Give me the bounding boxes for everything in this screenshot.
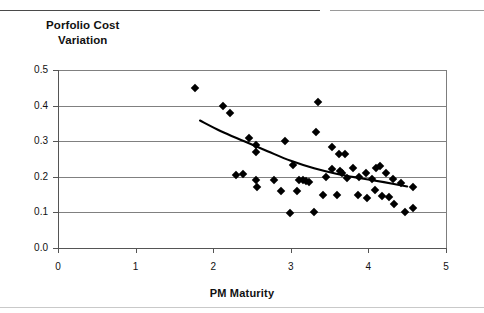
chart-title: Porfolio Cost Variation [46,18,120,48]
gridline-y [58,141,446,142]
y-tick-label: 0.2 [12,172,48,182]
gridline-y [58,106,446,107]
y-tick-mark [53,70,58,71]
gridline-y [58,70,446,71]
x-tick-mark [58,248,59,253]
page-rule-top-left [0,10,320,11]
x-tick-mark [213,248,214,253]
y-tick-label: 0.1 [12,207,48,217]
gridline-y [58,177,446,178]
x-tick-mark [291,248,292,253]
x-tick-mark [136,248,137,253]
page-rule-bottom [0,307,484,308]
chart-figure: Porfolio Cost Variation 0.00.10.20.30.40… [0,0,484,313]
x-tick-label: 0 [43,262,73,272]
y-tick-mark [53,141,58,142]
y-tick-mark [53,177,58,178]
y-tick-label: 0.3 [12,136,48,146]
x-axis-line [58,248,447,249]
x-tick-label: 3 [276,262,306,272]
x-tick-label: 1 [121,262,151,272]
y-tick-mark [53,106,58,107]
chart-title-line-2: Variation [46,33,120,48]
page-rule-top-right [330,10,484,11]
x-tick-mark [368,248,369,253]
x-tick-label: 2 [198,262,228,272]
chart-title-line-1: Porfolio Cost [46,19,120,31]
x-tick-label: 4 [353,262,383,272]
plot-area [58,70,447,248]
y-tick-label: 0.5 [12,65,48,75]
x-axis-label: PM Maturity [0,287,484,299]
y-tick-label: 0.0 [12,243,48,253]
y-tick-mark [53,212,58,213]
x-tick-mark [446,248,447,253]
gridline-y [58,212,446,213]
x-tick-label: 5 [431,262,461,272]
y-axis-line [58,70,59,249]
y-tick-label: 0.4 [12,101,48,111]
